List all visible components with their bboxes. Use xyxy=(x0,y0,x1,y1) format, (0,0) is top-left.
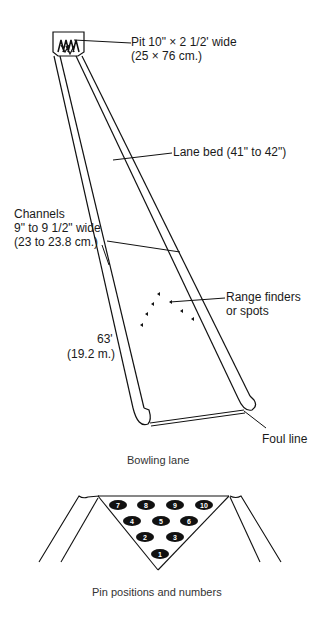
pit-label-line2: (25 × 76 cm.) xyxy=(131,49,202,63)
range-finders-label-line1: Range finders xyxy=(226,290,301,304)
svg-text:1: 1 xyxy=(158,551,162,558)
svg-text:3: 3 xyxy=(173,534,177,541)
length-label-line2: (19.2 m.) xyxy=(67,347,115,361)
range-finder-spots xyxy=(140,292,194,327)
svg-text:10: 10 xyxy=(200,502,208,509)
caption-pin-positions: Pin positions and numbers xyxy=(92,586,222,598)
length-label-line1: 63' xyxy=(97,332,113,346)
pit-label-line1: Pit 10" × 2 1/2' wide xyxy=(131,35,237,49)
range-finders-label-line2: or spots xyxy=(226,304,269,318)
channels-label-line2: 9" to 9 1/2" wide xyxy=(14,221,101,235)
svg-text:5: 5 xyxy=(159,518,163,525)
svg-text:6: 6 xyxy=(187,518,191,525)
channels-label-line3: (23 to 23.8 cm.) xyxy=(14,235,98,249)
svg-text:7: 7 xyxy=(116,502,120,509)
pit xyxy=(53,32,84,56)
lane-bed-label: Lane bed (41" to 42") xyxy=(173,145,286,159)
channels-label-line1: Channels xyxy=(14,207,65,221)
svg-text:8: 8 xyxy=(144,502,148,509)
svg-text:9: 9 xyxy=(173,502,177,509)
svg-text:2: 2 xyxy=(143,534,147,541)
caption-bowling-lane: Bowling lane xyxy=(127,454,189,466)
bowling-lane-diagram: 7 8 9 10 4 5 6 2 3 1 xyxy=(0,0,323,618)
foul-line-label: Foul line xyxy=(262,432,307,446)
foul-line xyxy=(150,410,245,426)
svg-text:4: 4 xyxy=(130,518,134,525)
